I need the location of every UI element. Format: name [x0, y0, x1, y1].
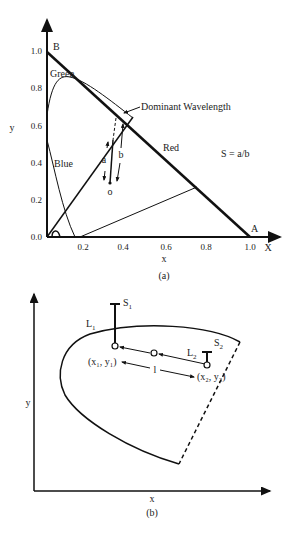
green-label: Green — [50, 68, 74, 79]
point-o — [108, 181, 111, 184]
arrow-a-up — [107, 142, 108, 148]
x-tick-4: 0.8 — [200, 242, 212, 252]
diagram-canvas: 0.0 0.2 0.4 0.6 0.8 1.0 0.2 0.4 0.6 0.8 … — [0, 0, 298, 533]
y-tick-4: 0.8 — [31, 83, 43, 93]
x-tick-1: 0.2 — [77, 242, 88, 252]
x-tick-3: 0.6 — [160, 242, 172, 252]
b-label: b — [119, 149, 124, 160]
dashed-o-line — [113, 118, 116, 140]
s1-label: S1 — [123, 297, 133, 311]
y-axis-label-b: y — [26, 397, 31, 408]
p1-label: (x₁, y₁) — [88, 356, 117, 368]
p2-label: (x₂, y₂) — [197, 371, 226, 383]
a-label: a — [102, 154, 107, 165]
x-axis-label: x — [162, 253, 167, 264]
arrow-a-down — [104, 171, 105, 180]
line-to-red — [80, 187, 197, 237]
l-arrow-left — [122, 362, 150, 368]
s2-label: S2 — [214, 337, 224, 351]
panel-b: y x (b) S1 L1 S2 L2 l (x₁, y₁) (x₂, y₂) — [26, 294, 271, 519]
o-label: o — [108, 186, 113, 197]
arrow-b-down — [117, 163, 120, 181]
blue-curve — [47, 140, 75, 237]
x-axis-label-b: x — [150, 493, 155, 504]
point-mid — [151, 350, 157, 356]
y-tick-1: 0.2 — [31, 195, 42, 205]
dominant-pointer — [124, 107, 140, 113]
line-origin-to-locus — [47, 117, 133, 237]
arrow-b-up — [121, 124, 123, 148]
l2-label: L2 — [187, 347, 197, 361]
point-a-label: A — [251, 223, 259, 234]
y-axis-label: y — [10, 122, 15, 133]
panel-a: 0.0 0.2 0.4 0.6 0.8 1.0 0.2 0.4 0.6 0.8 … — [10, 20, 281, 282]
point-p2 — [204, 362, 210, 368]
y-tick-3: 0.6 — [31, 121, 43, 131]
y-tick-2: 0.4 — [31, 158, 43, 168]
green-curve — [47, 77, 133, 118]
l-label: l — [154, 364, 157, 375]
point-b-label: B — [53, 41, 60, 52]
arrow-mid-to-p1 — [120, 347, 150, 353]
caption-b: (b) — [146, 507, 158, 519]
x-end-label: X — [264, 242, 272, 253]
dominant-label: Dominant Wavelength — [141, 101, 231, 112]
x-tick-2: 0.4 — [117, 242, 129, 252]
l-arrow-right — [160, 370, 194, 377]
arrow-p2-to-mid — [159, 354, 205, 364]
caption-a: (a) — [158, 270, 169, 282]
y-tick-0: 0.0 — [31, 232, 43, 242]
y-tick-5: 1.0 — [31, 46, 43, 56]
formula-label: S = a/b — [221, 148, 249, 159]
l1-label: L1 — [86, 318, 96, 332]
blue-label: Blue — [54, 158, 73, 169]
red-label: Red — [163, 142, 179, 153]
point-p1 — [112, 343, 118, 349]
x-tick-5: 1.0 — [244, 242, 256, 252]
